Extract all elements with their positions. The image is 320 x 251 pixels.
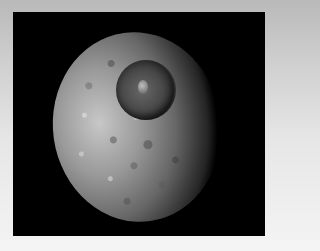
photo-frame bbox=[13, 12, 265, 236]
crater-central-peak bbox=[138, 80, 148, 94]
moon-crater-texture bbox=[41, 21, 234, 233]
herschel-crater bbox=[116, 60, 176, 120]
moon-disc bbox=[41, 21, 234, 233]
